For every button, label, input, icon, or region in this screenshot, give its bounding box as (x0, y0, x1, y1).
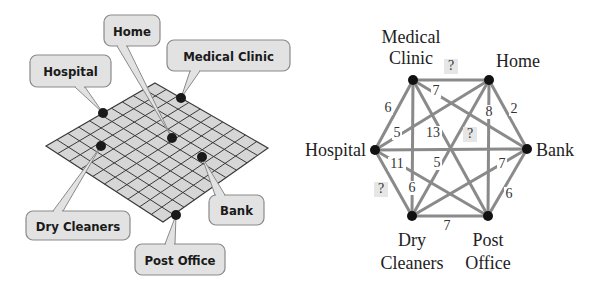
edge-weight: 5 (394, 125, 401, 140)
location-label: Home (113, 24, 151, 39)
location-label: Dry Cleaners (36, 219, 121, 234)
callout-pointer (75, 87, 103, 113)
graph-node-home (484, 75, 494, 85)
graph-node-hospital (370, 145, 380, 155)
graph-node-medical (408, 75, 418, 85)
location-marker-icon (98, 108, 108, 118)
graph-node-label: Hospital (305, 140, 366, 160)
graph-node-label: Dry (398, 230, 426, 250)
location-marker-icon (171, 210, 181, 220)
graph-node-postoffice (483, 211, 493, 221)
edge-weight: 6 (506, 186, 513, 201)
location-label: Bank (220, 203, 253, 218)
edge-medical-drycleaners (412, 80, 413, 216)
edge-weight: 7 (499, 156, 506, 171)
edge-weight: ? (448, 58, 454, 73)
edge-weight: ? (467, 126, 473, 141)
edge-weight: 7 (433, 83, 440, 98)
edge-weight: 6 (409, 180, 416, 195)
graph-node-label: Clinic (389, 48, 433, 68)
graph-node-label: Home (496, 51, 540, 71)
edge-weight: 5 (434, 155, 441, 170)
location-label: Hospital (43, 64, 98, 79)
graph-node-label: Office (465, 253, 511, 273)
graph-node-label: Post (472, 230, 503, 250)
figure-canvas: HospitalHomeMedical ClinicDry CleanersBa… (0, 0, 604, 289)
weighted-complete-graph: ?676132855?11?767MedicalClinicHomeHospit… (305, 27, 574, 273)
edge-weight: ? (378, 181, 384, 196)
graph-node-bank (522, 144, 532, 154)
location-label: Post Office (144, 253, 215, 268)
graph-node-drycleaners (407, 211, 417, 221)
graph-node-label: Cleaners (381, 253, 444, 273)
edge-weight: 6 (385, 100, 392, 115)
graph-node-label: Bank (536, 140, 574, 160)
edge-weight: 11 (390, 156, 403, 171)
edge-weight: 7 (444, 218, 451, 233)
map-callout-medical: Medical Clinic (167, 40, 290, 103)
location-marker-icon (197, 152, 207, 162)
isometric-grid-map: HospitalHomeMedical ClinicDry CleanersBa… (26, 15, 290, 275)
location-marker-icon (167, 133, 177, 143)
map-callout-hospital: Hospital (30, 55, 111, 118)
edge-hospital-bank (375, 149, 527, 150)
edge-weight: 8 (486, 104, 493, 119)
edge-weight: 2 (511, 101, 518, 116)
edge-weight: 13 (426, 125, 440, 140)
location-marker-icon (96, 141, 106, 151)
location-marker-icon (176, 93, 186, 103)
location-label: Medical Clinic (183, 49, 274, 64)
graph-node-label: Medical (382, 27, 441, 47)
